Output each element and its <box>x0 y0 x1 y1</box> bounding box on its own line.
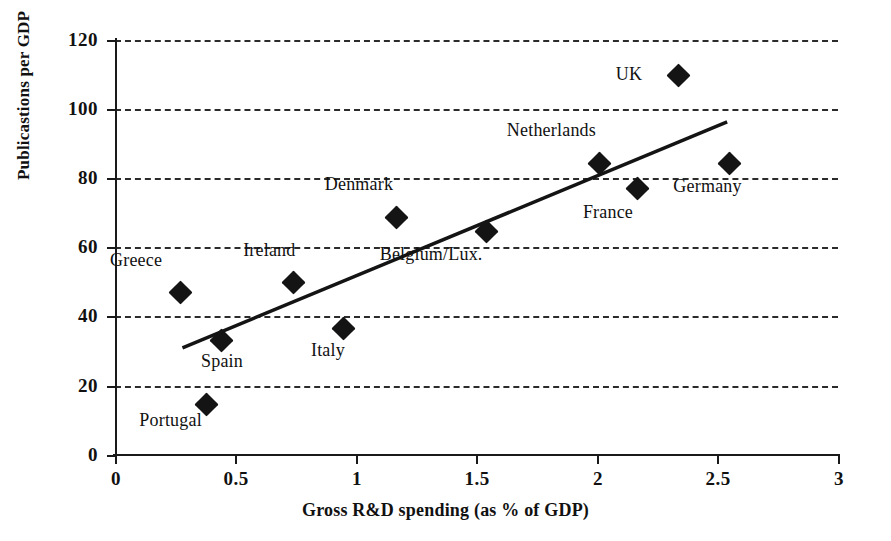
x-tick-label-3: 3 <box>809 468 869 490</box>
data-point-marker <box>168 280 192 304</box>
x-tick-0 <box>115 455 117 464</box>
x-tick-1 <box>356 455 358 464</box>
y-tick-label-120: 120 <box>52 30 98 49</box>
x-tick-label-1.5: 1.5 <box>447 468 507 490</box>
x-tick-label-2: 2 <box>568 468 628 490</box>
data-point-marker <box>626 177 650 201</box>
x-tick-1.5 <box>476 455 478 464</box>
data-point-marker <box>281 270 305 294</box>
data-point-marker <box>332 317 356 341</box>
x-axis-title: Gross R&D spending (as % of GDP) <box>0 500 891 521</box>
scatter-chart: 120 100 80 60 40 20 0 0 0.5 1 1.5 2 2.5 … <box>0 0 891 541</box>
data-point-marker <box>209 329 233 353</box>
data-point-marker <box>474 220 498 244</box>
x-tick-2 <box>597 455 599 464</box>
data-point-label: Netherlands <box>507 121 596 139</box>
y-axis-title: Publicastions per GDP <box>14 0 44 180</box>
x-tick-label-2.5: 2.5 <box>688 468 748 490</box>
y-tick-label-0: 0 <box>52 445 98 464</box>
data-point-label: Denmark <box>325 175 393 193</box>
data-point-label: Belgium/Lux. <box>380 245 483 263</box>
x-tick-label-0: 0 <box>86 468 146 490</box>
data-point-label: Spain <box>201 352 243 370</box>
x-tick-label-1: 1 <box>327 468 387 490</box>
data-point-marker <box>385 205 409 229</box>
y-tick-120 <box>107 40 117 42</box>
y-tick-40 <box>107 316 117 318</box>
data-point-marker <box>718 151 742 175</box>
y-tick-80 <box>107 178 117 180</box>
gridline-20 <box>115 386 838 388</box>
x-tick-0.5 <box>235 455 237 464</box>
data-point-label: UK <box>616 65 642 83</box>
x-tick-3 <box>838 455 840 464</box>
data-point-label: Portugal <box>139 411 202 429</box>
data-point-label: France <box>583 203 633 221</box>
y-tick-label-100: 100 <box>52 99 98 118</box>
y-tick-100 <box>107 109 117 111</box>
gridline-120 <box>115 40 838 42</box>
x-tick-label-0.5: 0.5 <box>206 468 266 490</box>
y-tick-20 <box>107 386 117 388</box>
gridline-100 <box>115 109 838 111</box>
data-point-label: Germany <box>673 177 741 195</box>
data-point-marker <box>587 151 611 175</box>
data-point-label: Greece <box>110 251 162 269</box>
data-point-marker <box>667 64 691 88</box>
y-tick-label-20: 20 <box>52 376 98 395</box>
y-tick-label-40: 40 <box>52 306 98 325</box>
data-point-label: Ireland <box>243 241 295 259</box>
trend-line <box>0 0 891 541</box>
y-tick-label-60: 60 <box>52 237 98 256</box>
x-tick-2.5 <box>717 455 719 464</box>
data-point-label: Italy <box>311 341 345 359</box>
y-tick-60 <box>107 247 117 249</box>
y-tick-label-80: 80 <box>52 168 98 187</box>
gridline-40 <box>115 316 838 318</box>
